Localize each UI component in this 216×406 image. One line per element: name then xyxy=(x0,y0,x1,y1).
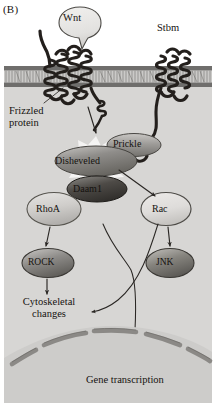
wnt-ligand-label: Wnt xyxy=(63,12,81,24)
panel-label: (B) xyxy=(3,3,18,15)
frizzled-label-line2: protein xyxy=(9,117,39,128)
rhoa-label: RhoA xyxy=(36,203,60,214)
pcp-wnt-signaling-figure: (B) Wnt Stbm Frizzled protein Prickle Di… xyxy=(0,0,216,406)
stbm-receptor-label: Stbm xyxy=(157,22,179,34)
rac-label: Rac xyxy=(152,203,168,214)
gene-transcription-label: Gene transcription xyxy=(86,374,164,386)
daam1-label: Daam1 xyxy=(73,183,102,194)
prickle-label: Prickle xyxy=(113,138,141,149)
frizzled-label-line1: Frizzled xyxy=(9,105,43,116)
cytoskeletal-label-line2: changes xyxy=(32,308,66,319)
cytoskeletal-label-line1: Cytoskeletal xyxy=(23,296,76,307)
jnk-label: JNK xyxy=(156,257,173,268)
frizzled-protein-label: Frizzled protein xyxy=(9,105,79,129)
rock-label: ROCK xyxy=(28,257,54,268)
pathway-diagram-canvas xyxy=(0,0,216,406)
cytoskeletal-changes-label: Cytoskeletal changes xyxy=(6,296,92,321)
disheveled-label: Disheveled xyxy=(55,155,100,166)
